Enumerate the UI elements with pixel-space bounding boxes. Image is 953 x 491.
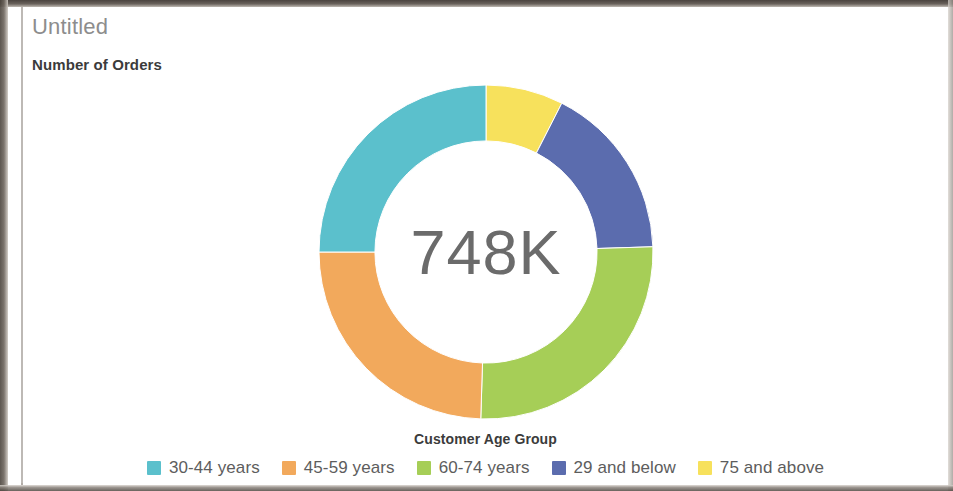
chart-panel: Untitled Number of Orders 748K Customer … [23, 8, 948, 485]
legend-item[interactable]: 75 and above [698, 458, 824, 478]
donut-slice[interactable] [481, 247, 653, 419]
donut-slice[interactable] [536, 103, 652, 248]
legend-item[interactable]: 60-74 years [417, 458, 530, 478]
legend-item-label: 60-74 years [439, 458, 530, 478]
screenshot-root: Untitled Number of Orders 748K Customer … [0, 0, 953, 491]
legend-swatch-icon [147, 461, 161, 475]
donut-slice[interactable] [319, 85, 486, 252]
legend-swatch-icon [417, 461, 431, 475]
legend-item-label: 30-44 years [169, 458, 260, 478]
scan-border-left [0, 0, 8, 491]
legend-title: Customer Age Group [23, 431, 948, 447]
legend-swatch-icon [698, 461, 712, 475]
page-title: Untitled [32, 14, 108, 40]
legend-item-label: 75 and above [720, 458, 824, 478]
legend-swatch-icon [552, 461, 566, 475]
legend-item-label: 29 and below [574, 458, 676, 478]
donut-slice[interactable] [319, 252, 483, 419]
donut-svg [316, 82, 656, 422]
legend-item[interactable]: 45-59 years [282, 458, 395, 478]
legend-item[interactable]: 29 and below [552, 458, 676, 478]
legend-swatch-icon [282, 461, 296, 475]
legend: 30-44 years45-59 years60-74 years29 and … [23, 458, 948, 478]
donut-chart[interactable]: 748K [316, 82, 656, 422]
legend-item[interactable]: 30-44 years [147, 458, 260, 478]
scan-border-top [0, 0, 953, 7]
scan-border-bottom [0, 485, 953, 491]
chart-title: Number of Orders [32, 56, 162, 73]
legend-item-label: 45-59 years [304, 458, 395, 478]
scan-border-right [948, 0, 953, 491]
donut-slice-layer [319, 85, 653, 419]
